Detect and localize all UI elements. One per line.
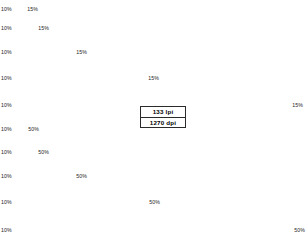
tint-ramp-end-label: 15% (27, 6, 38, 12)
tint-ramp-start-label: 10% (1, 199, 12, 205)
tint-ramp-end-label: 50% (38, 149, 49, 155)
tint-ramp-bar (0, 36, 83, 48)
tint-ramp-bar (0, 60, 155, 74)
tint-ramp-end-label: 50% (294, 227, 305, 233)
tint-ramp-bar (0, 86, 299, 101)
tint-ramp-start-label: 10% (1, 6, 12, 12)
tint-ramp-bar (0, 113, 25, 124)
tint-ramp-start-label: 10% (1, 149, 12, 155)
screen-ruling-value: 133 lpi (141, 107, 185, 117)
tint-ramp-start-label: 10% (1, 227, 12, 233)
tint-ramp-start-label: 10% (1, 75, 12, 81)
tint-ramp-bar (0, 0, 34, 5)
tint-ramp-end-label: 50% (149, 199, 160, 205)
tint-ramp-end-label: 15% (292, 102, 303, 108)
screening-info-plate: 133 lpi 1270 dpi (140, 106, 186, 128)
tint-ramp-end-label: 50% (76, 173, 87, 179)
tint-ramp-bar (0, 136, 45, 148)
tint-ramp-end-label: 50% (28, 126, 39, 132)
tint-ramp-bar (0, 159, 83, 172)
tint-ramp-end-label: 15% (76, 49, 87, 55)
tint-ramp-start-label: 10% (1, 102, 12, 108)
tint-ramp-start-label: 10% (1, 49, 12, 55)
tint-ramp-start-label: 10% (1, 126, 12, 132)
tint-ramp-end-label: 15% (38, 25, 49, 31)
tint-ramp-start-label: 10% (1, 25, 12, 31)
tint-ramp-start-label: 10% (1, 173, 12, 179)
tint-ramp-end-label: 15% (148, 75, 159, 81)
tint-ramp-bar (0, 208, 301, 225)
tint-ramp-bar (0, 183, 156, 198)
tint-ramp-bar (0, 13, 45, 24)
output-resolution-value: 1270 dpi (141, 117, 185, 127)
